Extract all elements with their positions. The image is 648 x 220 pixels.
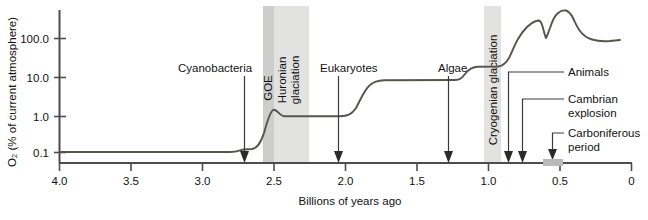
oxygen-history-chart: 100.0 10.0 1.0 0.1 4.0 3.5 3.0 2.5 2.0 1… [0, 0, 648, 220]
y-tick-label-0_1: 0.1 [33, 147, 49, 159]
annotation-label-cyanobacteria: Cyanobacteria [178, 62, 253, 74]
x-tick-label-1_0: 1.0 [481, 175, 497, 187]
band-label-huronian-glaciation-line1: Huronian [276, 57, 288, 104]
carboniferous-period-bar [543, 159, 563, 166]
annotation-label-eukaryotes: Eukaryotes [320, 62, 378, 74]
annotation-leader-cambrian-explosion [523, 99, 565, 151]
annotation-label-animals: Animals [568, 66, 609, 78]
annotation-label-cambrian-explosion-line1: Cambrian [568, 93, 618, 105]
x-tick-label-2_5: 2.5 [266, 175, 282, 187]
x-tick-labels: 4.0 3.5 3.0 2.5 2.0 1.5 1.0 0.5 0 [52, 175, 635, 187]
annotation-label-algae: Algae [438, 62, 467, 74]
y-axis-title: O₂ (% of current atmosphere) [6, 17, 18, 167]
x-tick-label-0_5: 0.5 [552, 175, 568, 187]
x-tick-label-4_0: 4.0 [52, 175, 68, 187]
annotation-carboniferous-period: Carboniferous period [543, 127, 640, 166]
band-label-huronian-glaciation-line2: glaciation [289, 56, 301, 105]
annotation-leader-animals [509, 72, 565, 151]
y-tick-label-1: 1.0 [33, 111, 49, 123]
x-axis-title: Billions of years ago [299, 195, 402, 207]
chart-svg: 100.0 10.0 1.0 0.1 4.0 3.5 3.0 2.5 2.0 1… [0, 0, 648, 220]
annotation-label-carboniferous-period-line1: Carboniferous [568, 127, 640, 139]
y-tick-label-10: 10.0 [27, 72, 49, 84]
annotation-arrow-eukaryotes [334, 151, 343, 163]
x-tick-label-1_5: 1.5 [409, 175, 425, 187]
annotation-label-carboniferous-period-line2: period [568, 141, 600, 153]
band-label-cryogenian-glaciation: Cryogenian glaciation [487, 35, 499, 146]
annotation-arrow-cyanobacteria [240, 151, 249, 163]
y-tick-labels: 100.0 10.0 1.0 0.1 [20, 33, 49, 159]
annotation-arrow-cambrian-explosion [518, 151, 527, 163]
band-label-goe: GOE [262, 75, 274, 101]
x-tick-label-3_0: 3.0 [195, 175, 211, 187]
annotation-arrow-carboniferous-period [548, 149, 557, 160]
x-tick-label-2_0: 2.0 [338, 175, 354, 187]
oxygen-curve [60, 10, 620, 152]
annotation-eukaryotes: Eukaryotes [320, 62, 378, 163]
annotation-cyanobacteria: Cyanobacteria [178, 62, 253, 163]
y-tick-label-100: 100.0 [20, 33, 49, 45]
annotation-leader-carboniferous-period [553, 133, 565, 149]
x-tick-label-0: 0 [628, 175, 634, 187]
annotation-arrow-animals [504, 151, 513, 163]
x-tick-label-3_5: 3.5 [123, 175, 139, 187]
annotation-arrow-algae [444, 151, 453, 163]
annotation-label-cambrian-explosion-line2: explosion [568, 107, 617, 119]
